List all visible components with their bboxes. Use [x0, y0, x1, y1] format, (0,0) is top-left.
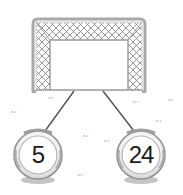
- connector-line-left: [45, 91, 74, 131]
- connector-line-right: [103, 91, 134, 131]
- connector-lines: [45, 91, 134, 131]
- ball-number-left: 5: [18, 143, 58, 167]
- ball-number-right: 24: [121, 143, 161, 167]
- goal-scene: 5 24: [0, 0, 183, 195]
- soccer-goal-icon: [32, 19, 146, 93]
